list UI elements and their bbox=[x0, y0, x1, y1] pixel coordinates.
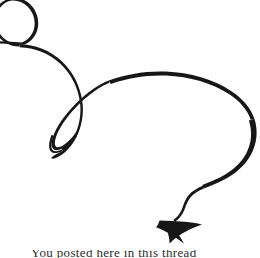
swirl-arrow-ink bbox=[0, 0, 257, 244]
upper-left-loop-stroke bbox=[0, 0, 38, 45]
left-descending-sweep bbox=[19, 44, 83, 137]
upper-right-arc bbox=[109, 71, 255, 120]
upper-left-loop-tail bbox=[0, 0, 19, 46]
right-bowl-thick-stroke bbox=[202, 119, 256, 189]
swirl-arrow-illustration: Decorative swirl arrow ornament bbox=[0, 0, 260, 258]
ornament-canvas: Decorative swirl arrow ornament You post bbox=[0, 0, 260, 258]
s-curve-to-arrowhead bbox=[173, 186, 203, 222]
